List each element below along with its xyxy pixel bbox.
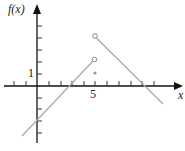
open-circle-upper [93, 34, 98, 39]
x-ticks [14, 81, 154, 86]
y-axis-label: f(x) [8, 2, 25, 17]
right-line-segment [97, 38, 164, 104]
x-tick-label: 5 [90, 87, 96, 102]
x-axis-label: x [178, 88, 183, 103]
y-tick-label: 1 [28, 66, 34, 81]
filled-point [93, 71, 96, 74]
open-circle-lower [92, 57, 97, 62]
y-axis-arrow-icon [33, 4, 41, 14]
